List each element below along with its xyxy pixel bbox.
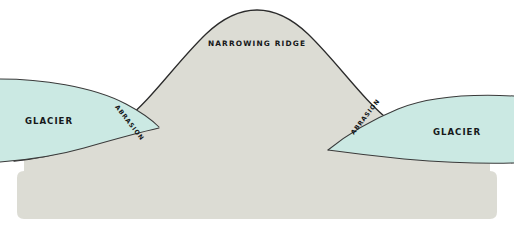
diagram-canvas: NARROWING RIDGE GLACIER GLACIER ABRASION… [0, 0, 514, 229]
glacial-ridge-diagram: NARROWING RIDGE GLACIER GLACIER ABRASION… [0, 0, 514, 229]
label-glacier-right: GLACIER [433, 127, 481, 137]
label-glacier-left: GLACIER [25, 116, 73, 126]
label-narrowing-ridge: NARROWING RIDGE [208, 39, 306, 48]
